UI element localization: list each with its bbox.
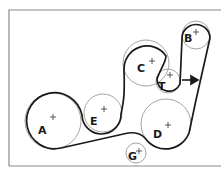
pulley-d-label: D [153,128,162,141]
pulley-c-label: C [137,62,145,75]
belt-diagram: A E C T B D G [0,0,221,175]
pulley-g-label: G [128,150,137,163]
pulley-b-label: B [184,32,192,45]
pulley-a-label: A [38,124,47,137]
serpentine-belt [27,24,210,148]
direction-arrow-icon [182,76,198,84]
pulley-e-label: E [90,115,98,128]
pulley-g: G [126,143,146,163]
